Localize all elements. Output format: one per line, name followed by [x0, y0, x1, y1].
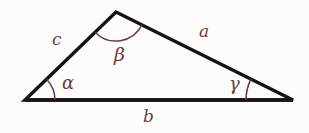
angle-arc-gamma: [246, 79, 251, 100]
angle-arc-alpha: [47, 79, 55, 100]
angle-label-alpha: α: [62, 74, 74, 92]
side-label-a: a: [199, 23, 209, 40]
side-label-b: b: [143, 108, 154, 125]
triangle-drawing: [0, 0, 309, 133]
angle-label-beta: β: [114, 45, 125, 64]
triangle-figure: c a b α β γ: [0, 0, 309, 133]
side-label-c: c: [52, 31, 62, 48]
angle-label-gamma: γ: [229, 75, 240, 93]
